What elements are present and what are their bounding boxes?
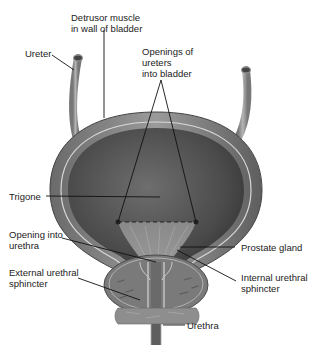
label-detrusor-muscle: Detrusor muscle in wall of bladder xyxy=(71,12,142,34)
label-trigone: Trigone xyxy=(9,191,41,202)
label-openings-of-ureters: Openings of ureters into bladder xyxy=(142,46,193,79)
label-prostate-gland: Prostate gland xyxy=(241,242,302,253)
label-external-urethral-sphincter: External urethral sphincter xyxy=(9,267,79,289)
label-opening-into-urethra: Opening into urethra xyxy=(9,229,63,251)
ureter-right xyxy=(238,67,251,138)
label-urethra: Urethra xyxy=(187,320,219,331)
label-internal-urethral-sphincter: Internal urethral sphincter xyxy=(241,272,308,294)
label-ureter: Ureter xyxy=(25,48,51,59)
bladder-diagram: Detrusor muscle in wall of bladder Urete… xyxy=(0,0,312,345)
ureter-left xyxy=(73,55,83,135)
urethra-tube xyxy=(151,324,161,345)
